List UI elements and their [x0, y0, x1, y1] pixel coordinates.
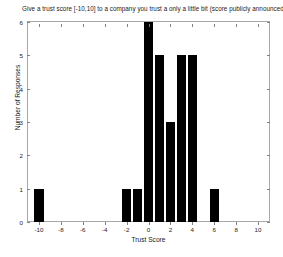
x-tick-label: -8 [58, 226, 64, 233]
y-tick-mark-right [267, 22, 270, 23]
x-tick-label: 2 [169, 226, 172, 233]
x-axis-label: Trust Score [27, 236, 270, 243]
x-tick-label: -4 [102, 226, 108, 233]
x-tick-label: 10 [255, 226, 262, 233]
x-tick-mark [192, 222, 193, 225]
y-tick-mark [27, 55, 30, 56]
y-tick-mark [27, 189, 30, 190]
y-tick-mark-right [267, 189, 270, 190]
y-tick-mark [27, 22, 30, 23]
x-tick-label: -10 [34, 226, 43, 233]
x-tick-mark [214, 222, 215, 225]
y-tick-label: 6 [20, 19, 23, 26]
y-tick-label: 1 [20, 185, 23, 192]
y-tick-mark [27, 122, 30, 123]
figure-container: Give a trust score [-10,10] to a company… [0, 0, 283, 257]
y-tick-mark [27, 89, 30, 90]
x-tick-mark [170, 222, 171, 225]
x-tick-mark [236, 222, 237, 225]
x-tick-label: 6 [212, 226, 215, 233]
y-axis-label: Number of Responses [14, 43, 21, 153]
x-tick-mark [61, 222, 62, 225]
chart-title: Give a trust score [-10,10] to a company… [22, 5, 280, 12]
x-tick-label: -6 [80, 226, 86, 233]
y-tick-mark [27, 155, 30, 156]
y-tick-label: 0 [20, 219, 23, 226]
x-tick-mark [105, 222, 106, 225]
x-tick-mark [83, 222, 84, 225]
x-tick-mark [127, 222, 128, 225]
y-tick-mark-right [267, 55, 270, 56]
x-tick-label: -2 [124, 226, 130, 233]
x-tick-mark [149, 222, 150, 225]
x-tick-mark [258, 222, 259, 225]
y-axis-ticks [27, 21, 270, 222]
x-tick-label: 4 [191, 226, 194, 233]
x-tick-mark [39, 222, 40, 225]
x-tick-label: 0 [147, 226, 150, 233]
x-axis-ticks: -10-8-6-4-20246810 [27, 222, 270, 236]
y-tick-mark-right [267, 122, 270, 123]
y-tick-mark-right [267, 89, 270, 90]
x-tick-label: 8 [234, 226, 237, 233]
y-tick-mark-right [267, 222, 270, 223]
y-tick-mark-right [267, 155, 270, 156]
y-tick-mark [27, 222, 30, 223]
y-tick-label: 2 [20, 152, 23, 159]
